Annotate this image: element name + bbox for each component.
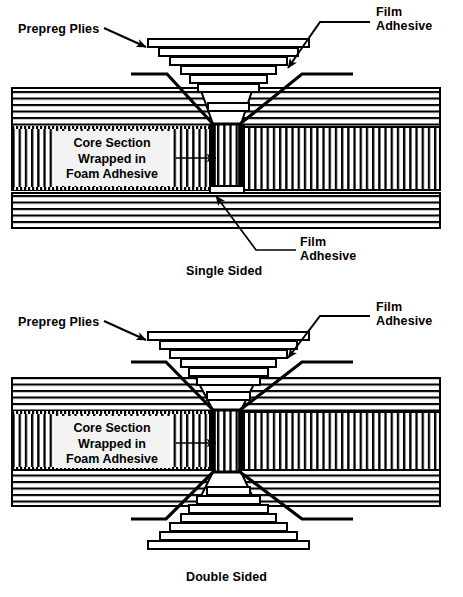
label-prepreg-plies-2: Prepreg Plies xyxy=(18,315,99,329)
caption-double-sided: Double Sided xyxy=(186,570,267,584)
caption-single-sided: Single Sided xyxy=(186,264,262,278)
label-core-section-2: Core Section Wrapped in Foam Adhesive xyxy=(56,421,168,468)
foam-adhesive-wrap-top xyxy=(12,126,211,129)
foam-adhesive-wrap-top-2 xyxy=(12,411,211,414)
label-prepreg-plies: Prepreg Plies xyxy=(18,22,99,36)
film-adhesive-pad xyxy=(210,186,244,193)
center-core-plug xyxy=(215,124,239,192)
center-core-plug-2 xyxy=(215,410,239,472)
core-band-right xyxy=(243,127,440,190)
upper-face-sheet-left-2 xyxy=(12,378,214,412)
leader-prepreg-plies xyxy=(104,28,146,47)
lower-face-sheet-right-2 xyxy=(240,470,440,506)
core-band-right-2 xyxy=(243,412,440,470)
diagram-canvas: Prepreg Plies Film Adhesive Film Adhesiv… xyxy=(0,0,463,597)
foam-adhesive-wrap-bottom xyxy=(12,187,211,190)
upper-face-sheet-right-2 xyxy=(240,378,440,412)
label-film-adhesive-top: Film Adhesive xyxy=(376,5,432,33)
label-film-adhesive-bottom: Film Adhesive xyxy=(300,235,356,263)
leader-prepreg-plies-2 xyxy=(104,321,146,340)
upper-face-sheet-right xyxy=(240,88,440,127)
label-core-section: Core Section Wrapped in Foam Adhesive xyxy=(56,136,168,183)
composite-sandwich-panel-diagram xyxy=(0,0,463,597)
label-film-adhesive-top-2: Film Adhesive xyxy=(376,300,432,328)
